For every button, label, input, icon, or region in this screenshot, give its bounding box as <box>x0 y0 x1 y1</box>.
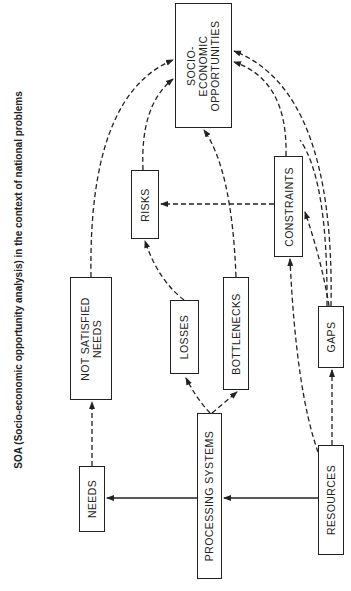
edge-losses-risks <box>145 241 184 300</box>
node-label: BOTTLENECKS <box>230 293 242 374</box>
node-label: ECONOMIC <box>198 20 210 111</box>
node-processing-systems: PROCESSING SYSTEMS <box>197 413 222 579</box>
edge-constraints-opportunities <box>234 62 286 156</box>
edge-gaps-opportunities-2 <box>300 140 327 306</box>
node-label: PROCESSING SYSTEMS <box>204 431 216 561</box>
edge-processing-losses <box>186 378 210 413</box>
edge-processing-bottlenecks <box>212 392 237 413</box>
node-label: LOSSES <box>179 315 191 359</box>
node-label: NOT SATISFIED <box>79 297 91 381</box>
edge-resources-constraints <box>290 259 318 452</box>
soa-diagram: SOA (Socio-economic opportunity analysis… <box>0 0 351 591</box>
node-label: RISKS <box>139 188 151 222</box>
node-losses: LOSSES <box>170 300 199 374</box>
node-label: GAPS <box>325 322 337 353</box>
node-label: SOCIO- <box>186 20 198 111</box>
node-not-satisfied-needs: NOT SATISFIED NEEDS <box>70 277 112 400</box>
node-bottlenecks: BOTTLENECKS <box>223 277 249 390</box>
node-label: RESOURCES <box>325 465 337 535</box>
node-gaps: GAPS <box>318 306 344 368</box>
node-label: NEEDS <box>86 480 98 518</box>
node-label: NEEDS <box>91 297 103 381</box>
node-resources: RESOURCES <box>318 445 344 555</box>
node-label: CONSTRAINTS <box>283 167 295 247</box>
node-risks: RISKS <box>131 170 159 239</box>
edge-risks-opportunities <box>143 79 173 170</box>
diagram-title: SOA (Socio-economic opportunity analysis… <box>13 91 24 468</box>
node-label: OPPORTUNITIES <box>210 20 222 111</box>
node-constraints: CONSTRAINTS <box>274 156 303 257</box>
node-socio-economic-opportunities: SOCIO- ECONOMIC OPPORTUNITIES <box>175 3 232 128</box>
edge-gaps-constraints <box>305 212 329 306</box>
node-needs: NEEDS <box>79 466 105 532</box>
